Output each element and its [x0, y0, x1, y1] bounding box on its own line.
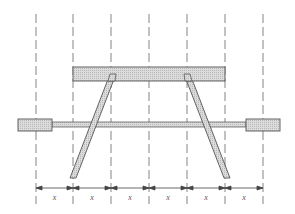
dimension-label-4: x — [165, 193, 170, 202]
right-slider-block — [246, 119, 280, 131]
linkage-diagram: x x x x x x — [0, 0, 295, 214]
dimension-label-5: x — [203, 193, 208, 202]
dimension-label-2: x — [89, 193, 94, 202]
dimension-label-3: x — [127, 193, 132, 202]
left-slider-block — [18, 119, 52, 131]
rod — [52, 122, 246, 127]
dimension-label-1: x — [52, 193, 57, 202]
top-beam — [73, 67, 225, 81]
dimension-line — [36, 186, 263, 190]
dimension-label-6: x — [241, 193, 246, 202]
